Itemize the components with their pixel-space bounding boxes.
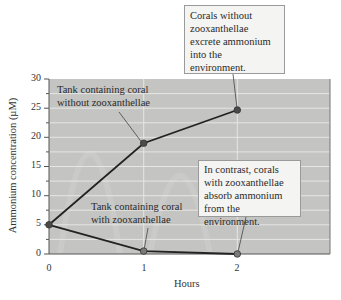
series-label-with-zooxanthellae: Tank containing coral with zooxanthellae [91,200,182,226]
x-axis-title: Hours [174,278,200,289]
callout-line: into the environment. [190,48,279,74]
callout-line: Corals without [190,9,279,22]
y-tick-label: 5 [21,217,41,228]
y-tick-label: 20 [21,130,41,141]
callout-line: zooxanthellae [190,22,279,35]
y-tick-label: 15 [21,159,41,170]
callout-line: excrete ammonium [190,35,279,48]
series-label-line: without zooxanthellae [57,96,150,109]
series-label-line: Tank containing coral [91,200,182,213]
series-label-line: Tank containing coral [57,83,150,96]
callout-line: absorb ammonium [204,189,295,202]
y-tick-label: 10 [21,188,41,199]
callout-excrete-ammonium: Corals without zooxanthellae excrete amm… [184,5,285,74]
y-tick-label: 30 [21,72,41,83]
series-label-without-zooxanthellae: Tank containing coral without zooxanthel… [57,83,150,109]
y-tick-label: 25 [21,101,41,112]
x-tick-label: 2 [229,262,245,273]
callout-line: from the environment. [204,202,295,228]
callout-line: In contrast, corals [204,163,295,176]
x-tick-label: 1 [136,262,152,273]
series-label-line: with zooxanthellae [91,213,182,226]
y-axis-title: Ammonium concentration (µM) [7,96,18,236]
callout-absorb-ammonium: In contrast, corals with zooxanthellae a… [198,160,301,217]
callout-line: with zooxanthellae [204,176,295,189]
y-tick-label: 0 [21,247,41,258]
x-tick-label: 0 [41,262,57,273]
chart-canvas [0,0,341,300]
